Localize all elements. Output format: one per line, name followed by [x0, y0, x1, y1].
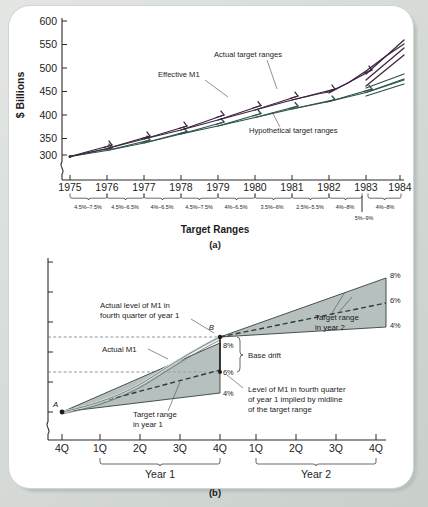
panel-b-xtick-2: 2Q: [133, 442, 147, 454]
panel-a-xtick-1979: 1979: [206, 181, 230, 193]
panel-b-xtick-6: 2Q: [289, 442, 303, 454]
panel-a-range-5: 4%–6.5%: [224, 204, 247, 210]
panel-a-ytick-450: 450: [39, 85, 57, 97]
panel-a-range-8: 4%–8%: [336, 204, 355, 210]
point-a-label: A: [52, 400, 58, 409]
panel-a-range-3: 4%–6.5%: [150, 204, 173, 210]
panel-a-caption: (a): [209, 239, 221, 250]
panel-b-caption: (b): [209, 487, 221, 498]
pct-6-year2: 6%: [390, 296, 401, 305]
panel-a-ytick-300: 300: [39, 149, 57, 161]
panel-a-range-2: 4.5%–6.5%: [111, 204, 139, 210]
base-drift-brace: [237, 337, 243, 372]
panel-a-y-ticks: [62, 21, 67, 155]
panel-b-year1-label: Year 1: [145, 468, 175, 480]
panel-a-x-ticks: [70, 175, 400, 180]
panel-a-xtick-1975: 1975: [58, 181, 82, 193]
pct-8-year2: 8%: [390, 271, 401, 280]
panel-a-xtick-1983: 1983: [354, 181, 378, 193]
panel-a-range-extra: 5%–9%: [355, 215, 374, 221]
panel-a-ytick-600: 600: [39, 15, 57, 27]
panel-a-origin-dot: [69, 155, 72, 158]
panel-a-label-effective-m1: Effective M1: [158, 70, 200, 79]
money-targets-figure: 600 550 500 450 400 350 300 $ Billions: [0, 0, 428, 507]
panel-b-xtick-3: 3Q: [173, 442, 187, 454]
pct-8-year1: 8%: [223, 341, 234, 350]
panel-a-xtick-1978: 1978: [169, 181, 193, 193]
panel-a-leader-actual: [267, 60, 277, 89]
panel-a-range-1: 4.5%–7.5%: [74, 204, 102, 210]
leader-actual-m1: [148, 349, 168, 359]
panel-a-ytick-350: 350: [39, 132, 57, 144]
annot-target-year2-line1: Target range: [315, 313, 359, 322]
panel-a-leader-hypothetical: [272, 112, 280, 127]
annot-target-year1-line1: Target range: [133, 410, 177, 419]
panel-a-title: Target Ranges: [181, 224, 250, 235]
panel-b-year2-bracket: [256, 458, 376, 466]
pct-4-year1: 4%: [223, 389, 234, 398]
leader-implied: [227, 375, 243, 388]
figure-root: 600 550 500 450 400 350 300 $ Billions: [0, 0, 428, 507]
panel-b-xtick-5: 1Q: [249, 442, 263, 454]
panel-a-range-7: 2.5%–5.5%: [296, 204, 324, 210]
annot-implied-line2: of year 1 implied by midline: [248, 395, 342, 404]
panel-a: 600 550 500 450 400 350 300 $ Billions: [14, 15, 412, 251]
panel-a-ytick-500: 500: [39, 62, 57, 74]
pct-6-year1: 6%: [223, 368, 234, 377]
annot-actual-m1: Actual M1: [102, 345, 137, 354]
panel-b-year1-bracket: [100, 458, 220, 466]
annot-target-year2-line2: in year 2: [315, 323, 345, 332]
implied-level-dot: [218, 370, 222, 374]
annot-implied-line1: Level of M1 in fourth quarter: [248, 385, 346, 394]
panel-a-range-9: 4%–8%: [376, 204, 395, 210]
panel-a-xtick-1976: 1976: [95, 181, 119, 193]
panel-a-range-6: 3.5%–6%: [260, 204, 283, 210]
panel-a-range-4: 4.5%–7.5%: [185, 204, 213, 210]
panel-b: 4Q 1Q 2Q 3Q 4Q 1Q 2Q 3Q 4Q Year 1 Year 2: [47, 258, 401, 498]
panel-a-label-hypothetical-target-ranges: Hypothetical target ranges: [249, 126, 338, 135]
panel-a-xtick-1980: 1980: [243, 181, 267, 193]
pct-4-year2: 4%: [390, 321, 401, 330]
panel-a-axis-break: [61, 162, 63, 180]
panel-a-ytick-550: 550: [39, 38, 57, 50]
panel-a-xtick-1984: 1984: [388, 181, 412, 193]
point-a-dot: [60, 410, 65, 415]
panel-a-y-axis-label: $ Billions: [14, 72, 26, 119]
annot-implied-line3: of the target range: [248, 405, 312, 414]
panel-b-xtick-4: 4Q: [213, 442, 227, 454]
panel-a-xtick-1982: 1982: [317, 181, 341, 193]
panel-a-label-actual-target-ranges: Actual target ranges: [214, 50, 282, 59]
panel-a-leader-effective-m1: [205, 80, 228, 97]
panel-a-xtick-1977: 1977: [132, 181, 156, 193]
panel-b-x-ticks: [62, 434, 376, 440]
annot-actual-level-line2: fourth quarter of year 1: [100, 311, 179, 320]
panel-a-xtick-1981: 1981: [280, 181, 304, 193]
point-b-dot: [218, 335, 222, 339]
panel-b-year2-label: Year 2: [301, 468, 331, 480]
panel-b-xtick-1: 1Q: [93, 442, 107, 454]
annot-actual-level-line1: Actual level of M1 in: [100, 301, 170, 310]
base-drift-label: Base drift: [248, 351, 282, 360]
panel-b-xtick-7: 3Q: [329, 442, 343, 454]
annot-target-year1-line2: in year 1: [133, 420, 163, 429]
panel-b-xtick-0: 4Q: [55, 442, 69, 454]
panel-b-axis-break: [47, 422, 49, 440]
panel-b-xtick-8: 4Q: [369, 442, 383, 454]
panel-a-ytick-400: 400: [39, 109, 57, 121]
